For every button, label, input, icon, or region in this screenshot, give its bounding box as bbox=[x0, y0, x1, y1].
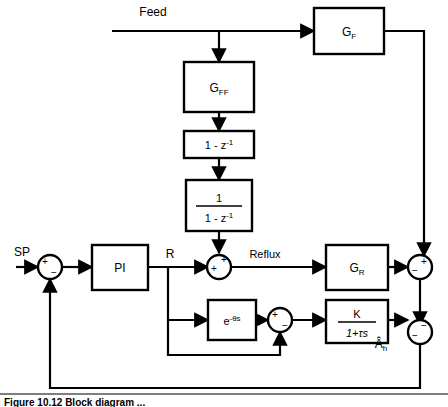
block-label-lag-den: 1+τs bbox=[346, 327, 369, 339]
sign-sum-right-1-plus: + bbox=[421, 256, 427, 267]
label-sp: SP bbox=[14, 245, 30, 259]
sign-sum-sp-minus: − bbox=[51, 267, 57, 278]
sign-sum-model-plus: + bbox=[272, 309, 278, 320]
sign-sum-reflux-plus-2: + bbox=[221, 254, 227, 265]
block-label-lag-num: K bbox=[353, 308, 361, 320]
wire-r-to-delay bbox=[168, 267, 208, 320]
block-label-pi: PI bbox=[114, 261, 125, 275]
block-label-integrator-num: 1 bbox=[216, 192, 222, 204]
sign-sum-right-2-minus-2: − bbox=[412, 330, 418, 341]
label-r: R bbox=[166, 247, 175, 261]
figure-canvas: Feed SP R Reflux Âh GF GFF 1 - z-1 1 1 -… bbox=[0, 0, 448, 407]
block-gff[interactable] bbox=[184, 62, 254, 112]
sign-sum-right-2-minus-1: − bbox=[421, 320, 427, 331]
blocks bbox=[92, 8, 388, 343]
sign-sum-reflux-plus-1: + bbox=[211, 263, 217, 274]
sign-sum-model-minus: − bbox=[282, 320, 288, 331]
block-diagram-svg: Feed SP R Reflux Âh GF GFF 1 - z-1 1 1 -… bbox=[0, 0, 448, 407]
label-reflux: Reflux bbox=[249, 248, 281, 260]
sign-sum-right-1-minus: − bbox=[412, 265, 418, 276]
label-feed: Feed bbox=[139, 5, 166, 19]
figure-caption: Figure 10.12 Block diagram ... bbox=[4, 397, 145, 407]
wire-gf-to-right-bus bbox=[384, 31, 424, 250]
sign-sum-sp-plus: + bbox=[42, 256, 48, 267]
